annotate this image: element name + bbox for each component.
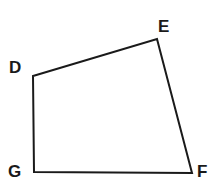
vertex-label-e: E [158,18,169,35]
vertex-label-g: G [8,163,21,180]
quadrilateral-outline [33,39,192,173]
quadrilateral-figure: D E G F [0,0,216,187]
quadrilateral-shape [0,0,216,187]
vertex-label-f: F [197,163,207,180]
vertex-label-d: D [9,59,21,76]
